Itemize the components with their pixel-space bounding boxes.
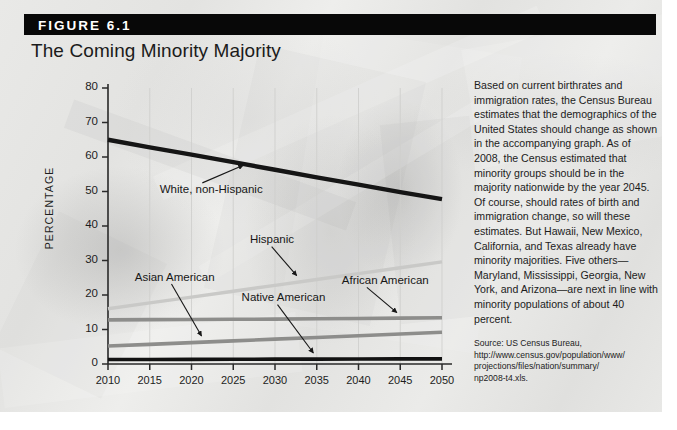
y-axis-title: PERCENTAGE [43,167,55,250]
y-axis-tick-label: 20 [72,287,98,299]
series-annotation-label: Hispanic [250,233,294,245]
x-axis-tick-label: 2030 [255,374,295,386]
figure-panel: FIGURE 6.1 The Coming Minority Majority … [0,0,662,412]
figure-caption: Based on current birthrates and immigrat… [474,78,660,326]
series-annotation-label: Native American [242,291,326,303]
chart-plot-svg [0,0,460,412]
line-chart: PERCENTAGE 01020304050607080201020152020… [0,0,460,412]
source-url-line3: np2008-t4.xls. [474,373,528,383]
source-label: Source: [474,338,504,348]
y-axis-tick-label: 10 [72,322,98,334]
source-text: US Census Bureau, [506,338,582,348]
y-axis-tick-label: 70 [72,115,98,127]
y-axis-tick-label: 30 [72,253,98,265]
x-axis-tick-label: 2015 [130,374,170,386]
series-annotation-label: African American [342,274,429,286]
y-axis-tick-label: 80 [72,80,98,92]
x-axis-tick-label: 2045 [380,374,420,386]
x-axis-tick-label: 2010 [88,374,128,386]
x-axis-tick-label: 2040 [339,374,379,386]
series-annotation-label: White, non-Hispanic [160,183,263,195]
y-axis-tick-label: 40 [72,218,98,230]
x-axis-tick-label: 2025 [213,374,253,386]
source-url-line1: http://www.census.gov/population/www/ [474,350,625,360]
y-axis-tick-label: 0 [72,356,98,368]
y-axis-tick-label: 50 [72,184,98,196]
x-axis-tick-label: 2050 [422,374,462,386]
x-axis-tick-label: 2020 [172,374,212,386]
figure-source: Source: US Census Bureau, http://www.cen… [474,338,664,384]
source-url-line2: projections/files/nation/summary/ [474,361,599,371]
series-annotation-label: Asian American [135,271,215,283]
y-axis-tick-label: 60 [72,149,98,161]
x-axis-tick-label: 2035 [297,374,337,386]
